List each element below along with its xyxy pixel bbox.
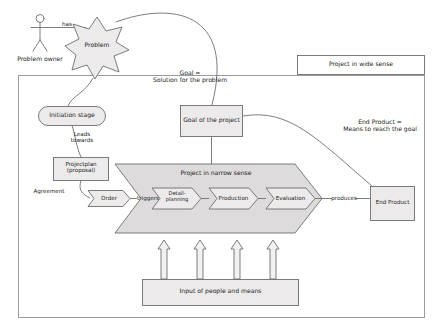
edge-problem-to-initiation — [68, 78, 93, 106]
end-product-shape — [371, 187, 415, 221]
order-shape — [88, 191, 130, 207]
input-arrow-1 — [158, 240, 170, 279]
problem-owner-actor — [31, 15, 49, 51]
project-wide-sense-label-box — [298, 56, 425, 75]
projectplan-shape — [54, 158, 109, 181]
problem-star-shape — [65, 17, 129, 79]
edge-projectplan-to-order — [80, 181, 90, 199]
input-box-shape — [143, 280, 299, 306]
initiation-stage-shape — [39, 107, 106, 126]
diagram-svg — [0, 0, 440, 335]
input-arrow-2 — [194, 240, 206, 279]
diagram-canvas: Problem owner has Problem Goal = Solutio… — [0, 0, 440, 335]
input-arrows-group — [158, 240, 279, 279]
input-arrow-3 — [231, 240, 243, 279]
goal-of-project-shape — [181, 106, 243, 137]
edge-initiation-to-projectplan — [72, 126, 81, 158]
input-arrow-4 — [267, 240, 279, 279]
edge-problem-to-goal — [116, 13, 217, 105]
